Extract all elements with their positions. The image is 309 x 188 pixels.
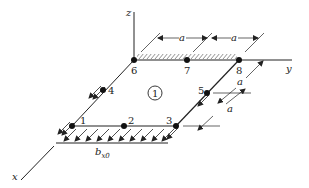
y-axis: y — [239, 60, 292, 74]
plate-element-diagram: z y x bx0 — [0, 0, 309, 188]
node-8 — [236, 57, 242, 63]
node-label-1: 1 — [80, 115, 86, 126]
load-label: bx0 — [95, 146, 110, 160]
node-2 — [121, 123, 127, 129]
node-label-2: 2 — [128, 115, 134, 126]
nodal-load-arrows — [58, 86, 209, 139]
node-label-6: 6 — [131, 65, 137, 76]
node-label-7: 7 — [184, 65, 190, 76]
node-1 — [69, 123, 75, 129]
node-label-5: 5 — [198, 85, 204, 96]
node-label-8: 8 — [236, 65, 242, 76]
node-3 — [173, 123, 179, 129]
z-axis-label: z — [125, 7, 132, 18]
node-label-4: 4 — [108, 85, 114, 96]
top-dimensions — [141, 33, 264, 52]
x-axis-label: x — [12, 171, 18, 182]
svg-text:1: 1 — [152, 88, 158, 99]
side-dimensions — [183, 61, 263, 130]
dimension-label-top-left: a — [179, 32, 185, 43]
dimension-label-top-right: a — [231, 32, 237, 43]
node-4 — [100, 87, 106, 93]
node-label-3: 3 — [166, 115, 172, 126]
dimension-label-side-upper: a — [237, 76, 243, 87]
y-axis-label: y — [285, 63, 292, 74]
dimension-label-side-lower: a — [227, 103, 233, 114]
distributed-load: bx0 — [56, 129, 174, 160]
node-6 — [131, 57, 137, 63]
node-5 — [204, 90, 210, 96]
z-axis: z — [125, 7, 134, 60]
x-axis: x — [12, 60, 134, 182]
node-7 — [184, 57, 190, 63]
element-label: 1 — [148, 86, 162, 100]
